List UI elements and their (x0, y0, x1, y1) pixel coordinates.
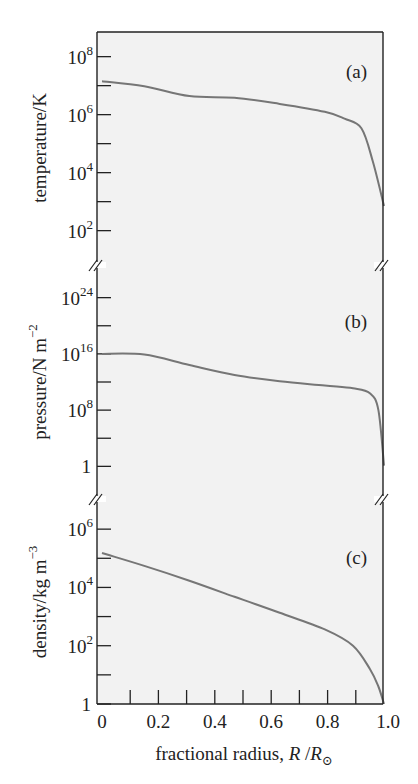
y-tick-label: 108 (68, 43, 94, 68)
x-tick-label: 0.6 (259, 711, 283, 732)
y-tick-label: 108 (68, 396, 94, 421)
y-tick-label: 1024 (61, 284, 94, 309)
x-tick-label: 0 (97, 711, 107, 732)
y-tick-label: 1 (82, 694, 92, 715)
x-tick-label: 0.2 (147, 711, 171, 732)
panel-tag: (b) (345, 311, 367, 333)
y-tick-label: 106 (68, 515, 94, 540)
x-tick-label: 0.4 (203, 711, 227, 732)
x-axis-label: fractional radius, R /R⊙ (155, 743, 333, 768)
solar-interior-chart: 108106104102(a)temperature/K102410161081… (0, 0, 418, 784)
panel-tag: (a) (346, 61, 367, 83)
y-tick-label: 1016 (61, 340, 94, 365)
x-tick-label: 0.8 (316, 711, 340, 732)
y-tick-label: 1 (82, 456, 92, 477)
y-tick-label: 102 (68, 217, 94, 242)
y-axis-label: temperature/K (29, 93, 50, 203)
plot-background (97, 32, 383, 704)
y-tick-label: 104 (68, 159, 94, 184)
y-axis-label: density/kg m−3 (25, 546, 50, 659)
x-tick-label: 1.0 (376, 711, 400, 732)
y-tick-label: 106 (68, 101, 94, 126)
y-tick-label: 104 (68, 573, 94, 598)
y-axis-label: pressure/N m−2 (25, 324, 50, 440)
panel-tag: (c) (346, 547, 367, 569)
y-tick-label: 102 (68, 632, 94, 657)
